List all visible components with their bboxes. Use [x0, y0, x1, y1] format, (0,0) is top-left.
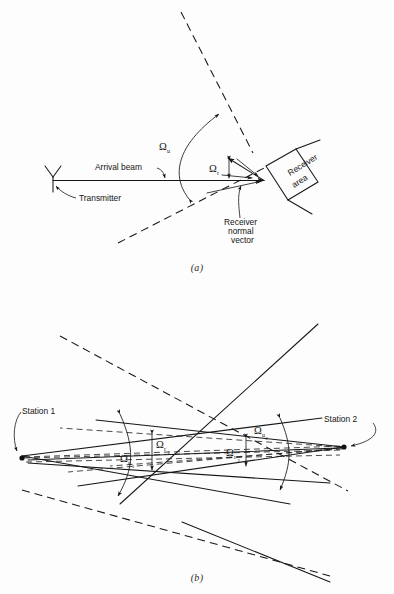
panel-b-svg: Ω u 1 Ω r 1 Ω u 2 Ω r 2 Station 1 Statio… — [0, 290, 394, 594]
omega-r1-subscript2: 1 — [168, 450, 171, 455]
omega-r1-subscript: r — [164, 446, 166, 452]
omega-r-symbol: Ω — [209, 163, 217, 174]
station-1-label: Station 1 — [22, 406, 55, 416]
station-1-leader — [14, 412, 21, 451]
receiver-normal-leader — [239, 186, 241, 218]
omega-r1-symbol: Ω — [156, 439, 164, 450]
panel-b-diagram: Ω u 1 Ω r 1 Ω u 2 Ω r 2 Station 1 Statio… — [0, 290, 394, 594]
omega-u-arc — [179, 114, 219, 199]
arrival-beam-leader — [157, 168, 165, 178]
omega-u1-subscript2: 1 — [132, 464, 135, 469]
station-2-leader — [351, 423, 376, 446]
receiver-plane-extension-bottom — [288, 200, 312, 214]
omega-u2-subscript2: 2 — [266, 436, 269, 441]
omega-u-subscript: u — [167, 148, 170, 154]
omega-u1-subscript: u — [128, 460, 131, 466]
omega-r2-symbol: Ω — [226, 447, 234, 458]
ray-upper-arrow — [237, 159, 258, 176]
panel-a-diagram: Receiver area Ω u Ω r Arrival beam Trans… — [0, 0, 394, 296]
transmitter-antenna-icon — [45, 166, 61, 192]
omega-r2-subscript: r — [234, 454, 236, 460]
figure-page: Receiver area Ω u Ω r Arrival beam Trans… — [0, 0, 394, 594]
upper-dashed-line — [181, 12, 253, 153]
omega-r-subscript: r — [217, 170, 219, 176]
receiver-normal-label-line3: vector — [231, 235, 254, 245]
omega-u1-symbol: Ω — [120, 453, 128, 464]
station-1-vertex-dot — [19, 455, 24, 460]
station-2-label: Station 2 — [324, 414, 357, 424]
transmitter-label: Transmitter — [79, 193, 121, 203]
panel-a-svg: Receiver area Ω u Ω r Arrival beam Trans… — [0, 0, 394, 296]
omega-u-symbol: Ω — [159, 141, 167, 152]
arrival-beam-label: Arrival beam — [95, 162, 142, 172]
caption-a: (a) — [0, 262, 394, 273]
station-2-vertex-dot — [341, 444, 346, 449]
receiver-plane-extension-top — [296, 140, 320, 149]
caption-b: (b) — [0, 572, 394, 583]
solid-cross-line-1 — [120, 324, 318, 504]
omega-u2-symbol: Ω — [254, 425, 262, 436]
transmitter-leader — [56, 186, 76, 198]
omega-u2-arc — [280, 418, 289, 490]
